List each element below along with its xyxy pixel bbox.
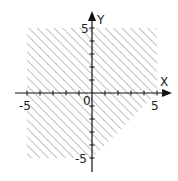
y-tick-label-neg5: -5 [75, 152, 87, 166]
origin-label: 0 [83, 94, 91, 108]
x-axis-label: X [160, 75, 168, 89]
y-tick-label-5: 5 [81, 22, 89, 36]
x-tick-label-neg5: -5 [19, 99, 31, 113]
x-tick-label-5: 5 [151, 99, 159, 113]
y-axis-label: Y [96, 13, 105, 27]
region-plot: X Y -5 5 5 -5 0 [0, 0, 178, 181]
x-axis-arrow-icon [162, 89, 172, 97]
y-axis-arrow-icon [88, 11, 96, 21]
